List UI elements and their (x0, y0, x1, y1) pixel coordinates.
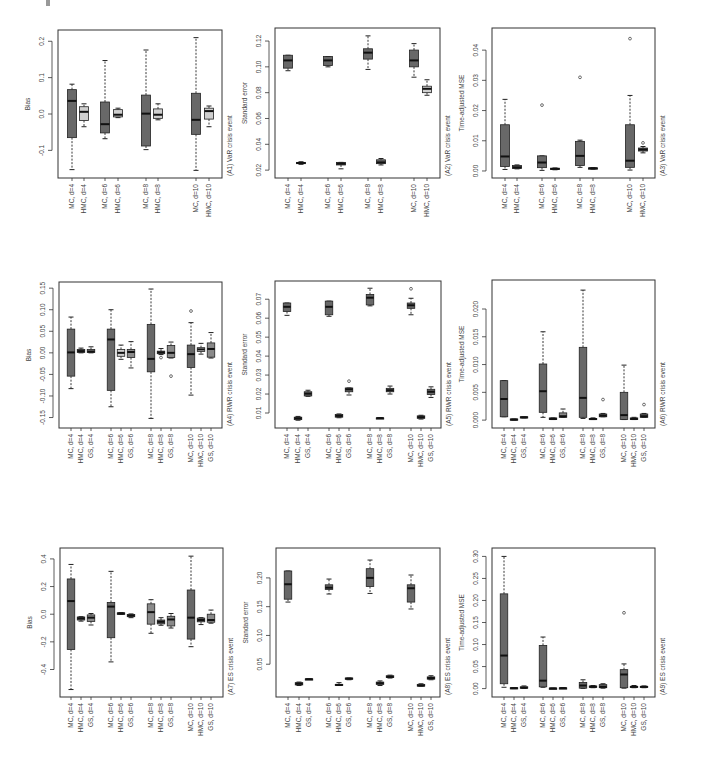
y-tick-label: 0.05 (256, 658, 263, 671)
box-hmc-d-4: HMC, d=4 (510, 688, 518, 733)
box-mc-d-10: MC, d=10 (626, 37, 635, 212)
y-tick-label: -0.4 (40, 664, 47, 676)
y-tick-label: 0.000 (472, 412, 479, 429)
panel-caption: (A1) VaR crisis event (226, 115, 234, 176)
box-hmc-d-4: HMC, d=4 (80, 104, 89, 214)
box-gs-d-6: GS, d=6 (559, 688, 567, 727)
x-category-label: HMC, d=4 (294, 434, 301, 464)
box-hmc-d-4: HMC, d=4 (297, 162, 306, 214)
box-hmc-d-6: HMC, d=6 (335, 414, 343, 464)
x-category-label: MC, d=10 (192, 184, 199, 213)
box-mc-d-4: MC, d=4 (68, 84, 77, 209)
box-gs-d-6: GS, d=6 (345, 380, 353, 458)
y-tick-label: 0.0 (40, 609, 47, 618)
box-hmc-d-8: HMC, d=8 (377, 159, 386, 214)
y-tick-label: 0.15 (472, 616, 479, 629)
y-tick-label: 0.04 (255, 349, 262, 362)
x-category-label: HMC, d=8 (589, 184, 596, 214)
x-category-label: MC, d=4 (67, 434, 74, 459)
box-mc-d-6: MC, d=6 (101, 61, 110, 209)
box-hmc-d-10: HMC, d=10 (205, 106, 214, 217)
box-gs-d-8: GS, d=8 (386, 675, 394, 727)
box-hmc-d-4: HMC, d=4 (294, 416, 302, 463)
x-category-label: HMC, d=4 (510, 703, 517, 733)
y-tick-label: 0.2 (38, 36, 45, 45)
x-category-label: HMC, d=6 (117, 434, 124, 464)
y-tick-label: 0.01 (255, 406, 262, 419)
x-category-label: MC, d=6 (107, 703, 114, 728)
x-category-label: GS, d=10 (640, 703, 647, 731)
box-gs-d-6: GS, d=6 (345, 678, 353, 727)
y-tick-label: 0.15 (256, 600, 263, 613)
box-mc-d-4: MC, d=4 (67, 317, 75, 459)
box-gs-d-8: GS, d=8 (386, 386, 394, 458)
box-mc-d-8: MC, d=8 (147, 600, 155, 728)
x-category-label: MC, d=4 (67, 703, 74, 728)
box-gs-d-8: GS, d=8 (599, 684, 607, 727)
box-hmc-d-8: HMC, d=8 (376, 681, 384, 733)
y-tick-label: 0.05 (472, 660, 479, 673)
x-category-label: HMC, d=8 (157, 703, 164, 733)
y-tick-label: 0.00 (39, 346, 46, 359)
box-hmc-d-8: HMC, d=8 (157, 618, 165, 733)
x-category-label: MC, d=8 (147, 703, 154, 728)
x-category-label: GS, d=8 (386, 434, 393, 458)
x-category-label: HMC, d=8 (589, 703, 596, 733)
panel-caption: (A3) VaR crisis event (659, 115, 667, 176)
x-category-label: GS, d=6 (127, 703, 134, 727)
x-category-label: HMC, d=4 (80, 184, 87, 214)
panel-a1: -0.10.00.10.2Bias(A1) VaR crisis eventMC… (24, 30, 234, 217)
x-category-label: GS, d=10 (207, 434, 214, 462)
x-category-label: MC, d=6 (539, 703, 546, 728)
box-mc-d-4: MC, d=4 (501, 99, 510, 208)
outlier-point (348, 380, 351, 383)
x-category-label: GS, d=6 (559, 703, 566, 727)
y-tick-label: 0.10 (39, 303, 46, 316)
y-tick-label: 0.05 (255, 330, 262, 343)
plot-frame (275, 281, 441, 428)
box-hmc-d-8: HMC, d=8 (589, 418, 597, 464)
y-tick-label: 0.02 (255, 387, 262, 400)
y-tick-label: 0.06 (255, 311, 262, 324)
x-category-label: MC, d=8 (576, 184, 583, 209)
box-mc-d-6: MC, d=6 (107, 571, 115, 727)
box-hmc-d-6: HMC, d=6 (117, 345, 125, 463)
y-tick-label: 0.12 (255, 34, 262, 47)
box-gs-d-10: GS, d=10 (207, 333, 215, 462)
box-hmc-d-10: HMC, d=10 (630, 417, 638, 467)
x-category-label: GS, d=4 (520, 703, 527, 727)
y-axis-title: Time-adjusted MSE (458, 593, 466, 650)
x-category-label: MC, d=4 (500, 703, 507, 728)
x-category-label: MC, d=10 (407, 703, 414, 732)
box-gs-d-4: GS, d=4 (304, 390, 312, 458)
x-category-label: MC, d=6 (324, 184, 331, 209)
box-mc-d-8: MC, d=8 (579, 680, 587, 728)
x-category-label: HMC, d=4 (77, 703, 84, 733)
x-category-label: MC, d=4 (500, 434, 507, 459)
panel-a4: -0.15-0.10-0.050.000.050.100.15Bias(A4) … (25, 281, 234, 467)
y-axis-title: Bias (24, 97, 31, 110)
y-tick-label: 0.00 (472, 682, 479, 695)
y-axis-title: Standard error (242, 601, 249, 644)
x-category-label: HMC, d=10 (423, 184, 430, 217)
x-category-label: MC, d=10 (410, 184, 417, 213)
y-tick-label: 0.10 (256, 629, 263, 642)
box-hmc-d-8: HMC, d=8 (376, 418, 384, 464)
x-category-label: MC, d=6 (101, 184, 108, 209)
box-gs-d-10: GS, d=10 (640, 686, 648, 731)
y-tick-label: -0.05 (39, 367, 46, 382)
box-mc-d-6: MC, d=6 (325, 301, 333, 459)
box-mc-d-6: MC, d=6 (324, 57, 333, 209)
box-mc-d-10: MC, d=10 (620, 365, 628, 462)
panel-caption: (A6) RWR crisis event (659, 362, 667, 426)
y-tick-label: -0.15 (39, 410, 46, 425)
y-tick-label: 0.020 (472, 300, 479, 317)
box-hmc-d-6: HMC, d=6 (549, 418, 557, 464)
x-category-label: HMC, d=8 (154, 184, 161, 214)
box-gs-d-8: GS, d=8 (167, 342, 175, 458)
box-gs-d-10: GS, d=10 (640, 403, 648, 462)
x-category-label: HMC, d=8 (376, 703, 383, 733)
x-category-label: GS, d=6 (559, 434, 566, 458)
panel-a3: 0.000.010.020.030.04Time-adjusted MSE(A3… (458, 28, 667, 217)
x-category-label: HMC, d=10 (417, 434, 424, 467)
